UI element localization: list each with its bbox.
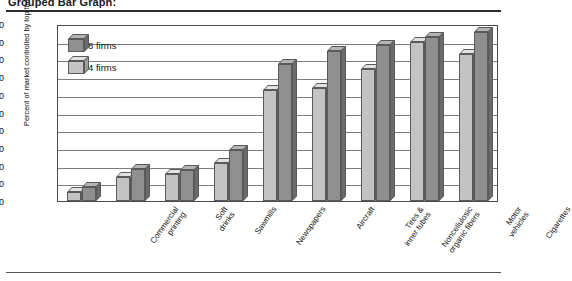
legend-item: 4 firms <box>66 56 117 78</box>
bar <box>82 187 96 201</box>
bar <box>474 32 488 201</box>
bar <box>214 163 228 201</box>
bar <box>459 54 473 201</box>
bar <box>312 88 326 201</box>
bar <box>229 150 243 201</box>
bar <box>361 69 375 201</box>
bar <box>116 177 130 201</box>
y-axis-tick-label: 0 <box>0 198 4 207</box>
bar <box>278 64 292 201</box>
light-cube-icon <box>68 61 84 74</box>
bar <box>425 37 439 201</box>
y-axis-tick-label: 20 <box>0 162 4 171</box>
bar <box>67 192 81 201</box>
y-axis-tick-label: 90 <box>0 38 4 47</box>
y-axis-tick-label: 10 <box>0 180 4 189</box>
bar <box>327 51 341 201</box>
y-axis-tick-label: 30 <box>0 144 4 153</box>
bar <box>165 174 179 201</box>
bar <box>376 45 390 201</box>
bar-group <box>205 26 254 201</box>
bar-group <box>254 26 303 201</box>
bar-group <box>156 26 205 201</box>
bar <box>180 170 194 201</box>
y-axis-tick-label: 50 <box>0 109 4 118</box>
x-axis-label: Newspapers <box>268 205 327 281</box>
y-axis-tick-label: 100 <box>0 21 4 30</box>
legend-item-label: 8 firms <box>88 40 117 51</box>
bar <box>410 42 424 201</box>
y-axis-tick-label: 60 <box>0 91 4 100</box>
legend-item-label: 4 firms <box>88 62 117 73</box>
bar-group <box>401 26 450 201</box>
y-axis-tick-label: 80 <box>0 56 4 65</box>
y-axis-tick-label: 40 <box>0 127 4 136</box>
bar-group <box>303 26 352 201</box>
legend-item: 8 firms <box>66 34 117 56</box>
bar <box>131 169 145 201</box>
y-axis-tick-label: 70 <box>0 74 4 83</box>
dark-cube-icon <box>68 39 84 52</box>
x-axis-label: Aircraft <box>317 205 376 281</box>
top-rule-divider <box>6 10 501 12</box>
bar <box>263 90 277 201</box>
bar-group <box>450 26 499 201</box>
chart-legend: 8 firms 4 firms <box>66 34 117 78</box>
bar-group <box>352 26 401 201</box>
plot-area: 8 firms 4 firms <box>57 25 498 202</box>
x-axis-labels: Commercial printingSoft drinksSawmillsNe… <box>57 205 498 275</box>
y-axis-title: Percent of market controlled by top firm… <box>23 0 30 145</box>
